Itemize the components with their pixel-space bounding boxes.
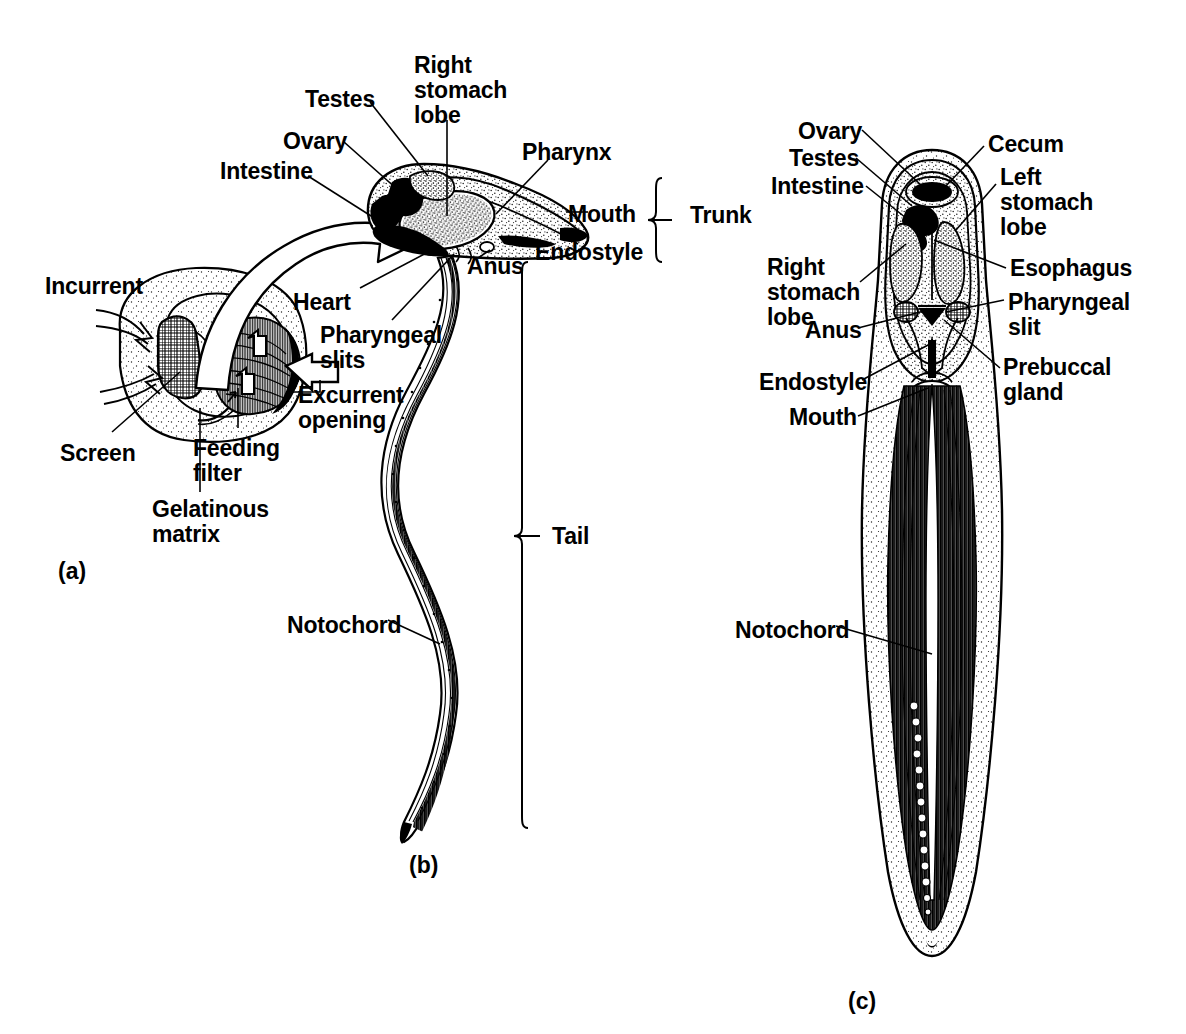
label-esophagus-c: Esophagus bbox=[1010, 256, 1132, 281]
label-intestine-c: Intestine bbox=[771, 174, 864, 199]
label-anus-c: Anus bbox=[805, 318, 862, 343]
label-prebuccal-gland-c: Prebuccal gland bbox=[1003, 355, 1111, 405]
label-anus-b: Anus bbox=[467, 254, 524, 279]
bracket-label-trunk: Trunk bbox=[690, 203, 752, 228]
panel-caption-c: (c) bbox=[848, 988, 876, 1015]
label-testes-c: Testes bbox=[789, 146, 859, 171]
label-left-stomach-lobe-c: Left stomach lobe bbox=[1000, 165, 1093, 240]
label-excurrent-opening-a: Excurrent opening bbox=[298, 383, 404, 433]
label-incurrent-a: Incurrent bbox=[45, 274, 143, 299]
label-right-stomach-lobe-b: Right stomach lobe bbox=[414, 53, 507, 128]
label-mouth-b: Mouth bbox=[568, 202, 636, 227]
label-ovary-b: Ovary bbox=[283, 129, 347, 154]
bracket-label-tail: Tail bbox=[552, 524, 589, 549]
label-gelatinous-matrix-a: Gelatinous matrix bbox=[152, 497, 269, 547]
figure-container: Incurrent Screen Feeding filter Gelatino… bbox=[0, 0, 1186, 1034]
label-heart-b: Heart bbox=[293, 290, 351, 315]
label-feeding-filter-a: Feeding filter bbox=[193, 436, 280, 486]
label-ovary-c: Ovary bbox=[798, 119, 862, 144]
label-cecum-c: Cecum bbox=[988, 132, 1064, 157]
label-endostyle-c: Endostyle bbox=[759, 370, 867, 395]
label-notochord-b: Notochord bbox=[287, 613, 401, 638]
panel-caption-a: (a) bbox=[58, 558, 86, 585]
label-testes-b: Testes bbox=[305, 87, 375, 112]
label-pharyngeal-slit-c: Pharyngeal slit bbox=[1008, 290, 1130, 340]
label-notochord-c: Notochord bbox=[735, 618, 849, 643]
label-intestine-b: Intestine bbox=[220, 159, 313, 184]
panel-caption-b: (b) bbox=[409, 852, 438, 879]
label-endostyle-b: Endostyle bbox=[535, 240, 643, 265]
label-pharynx-b: Pharynx bbox=[522, 140, 611, 165]
label-mouth-c: Mouth bbox=[789, 405, 857, 430]
label-pharyngeal-slits-b: Pharyngeal slits bbox=[320, 323, 442, 373]
label-screen-a: Screen bbox=[60, 441, 136, 466]
